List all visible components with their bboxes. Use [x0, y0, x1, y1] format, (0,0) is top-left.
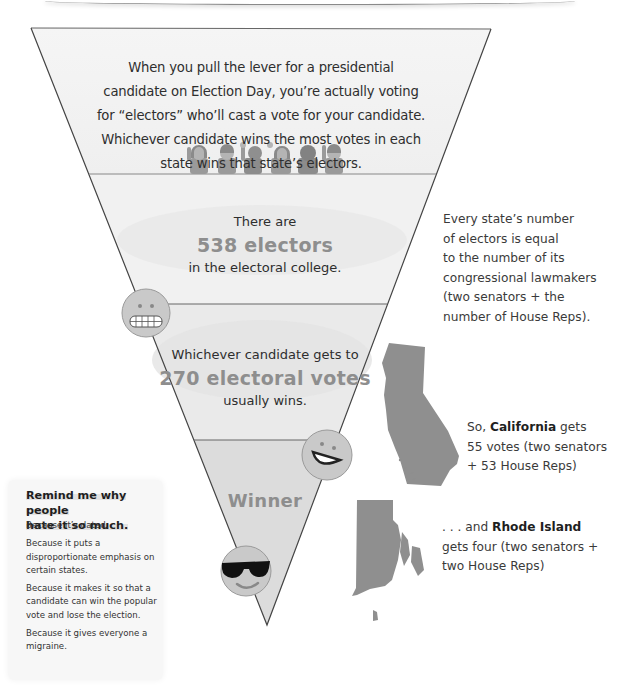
electors-count-block: There are 538 electors in the electoral …: [150, 212, 380, 278]
california-reps-line: + 53 House Reps): [467, 457, 617, 477]
note-line: Every state’s number: [443, 210, 618, 230]
rhode-island-state-name: Rhode Island: [492, 520, 581, 534]
note-line: congressional lawmakers: [443, 269, 618, 289]
california-votes-line: 55 votes (two senators: [467, 438, 617, 458]
sunglasses-face-icon: [221, 546, 271, 596]
california-post: gets: [556, 420, 586, 434]
sidebar-title-line1: Remind me why people: [26, 489, 126, 517]
reason-item: Because it makes it so that a candidate …: [26, 582, 166, 622]
note-line: (two senators + the: [443, 288, 618, 308]
threshold-highlight: 270 electoral votes: [150, 365, 380, 391]
rhode-island-votes-line: gets four (two senators +: [442, 538, 617, 558]
reason-item: Because it’s dated.: [26, 519, 166, 532]
rhode-island-reps-line: two House Reps): [442, 557, 617, 577]
threshold-block: Whichever candidate gets to 270 electora…: [150, 345, 380, 411]
threshold-pre-text: Whichever candidate gets to: [150, 345, 380, 365]
threshold-post-text: usually wins.: [150, 391, 380, 411]
note-line: number of House Reps).: [443, 308, 618, 328]
grimacing-face-icon: [122, 289, 170, 337]
reasons-sidebar: Remind me why people hate it so much. Be…: [8, 480, 163, 680]
rhode-island-map-icon: [352, 500, 424, 621]
california-pre: So,: [467, 420, 490, 434]
electors-pre-text: There are: [150, 212, 380, 232]
rhode-island-pre: . . . and: [442, 520, 492, 534]
reason-item: Because it puts a disproportionate empha…: [26, 537, 166, 577]
intro-explanation: When you pull the lever for a presidenti…: [95, 56, 427, 176]
reasons-list: Because it’s dated. Because it puts a di…: [26, 519, 166, 659]
note-line: to the number of its: [443, 249, 618, 269]
electors-count-highlight: 538 electors: [150, 232, 380, 258]
note-line: of electors is equal: [443, 230, 618, 250]
reason-item: Because it gives everyone a migraine.: [26, 627, 166, 654]
california-map-icon: [382, 343, 459, 486]
winner-label: Winner: [200, 490, 330, 511]
california-note: So, California gets 55 votes (two senato…: [467, 418, 617, 477]
california-state-name: California: [490, 420, 556, 434]
rhode-island-note: . . . and Rhode Island gets four (two se…: [442, 518, 617, 577]
electors-rule-note: Every state’s number of electors is equa…: [443, 210, 618, 327]
grinning-face-icon: [302, 430, 352, 480]
electors-post-text: in the electoral college.: [150, 258, 380, 278]
